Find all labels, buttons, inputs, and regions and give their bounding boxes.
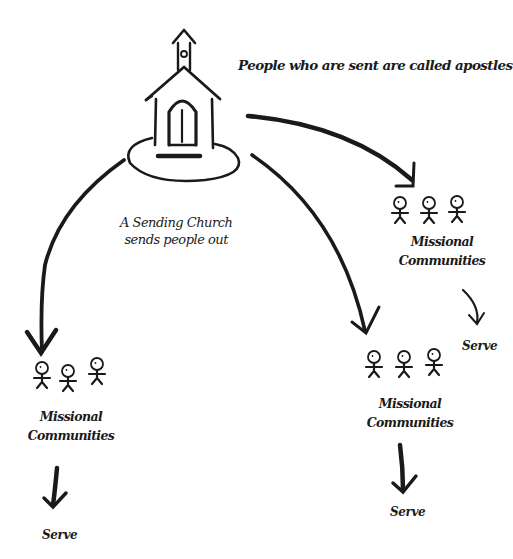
community-label-right: Missional Communities xyxy=(387,232,497,270)
serve-label-right: Serve xyxy=(462,339,497,353)
arrow-to-right-community xyxy=(248,116,414,186)
serve-arrow-middle xyxy=(393,445,416,492)
community-label-line1: Missional xyxy=(387,232,497,251)
church-icon xyxy=(128,30,239,181)
community-label-line1: Missional xyxy=(16,407,126,426)
serve-arrow-left xyxy=(44,468,66,507)
people-group-middle xyxy=(366,349,442,377)
sending-church-label-line2: sends people out xyxy=(120,231,232,248)
community-label-line2: Communities xyxy=(387,251,497,270)
people-group-right xyxy=(392,196,465,223)
community-label-left: Missional Communities xyxy=(16,407,126,445)
sending-church-label-line1: A Sending Church xyxy=(120,214,232,231)
diagram-title: People who are sent are called apostles xyxy=(238,57,513,73)
community-label-line2: Communities xyxy=(355,413,465,432)
sending-church-label: A Sending Church sends people out xyxy=(120,214,232,248)
serve-arrow-right xyxy=(463,290,484,324)
community-label-middle: Missional Communities xyxy=(355,394,465,432)
people-group-left xyxy=(34,358,105,391)
community-label-line2: Communities xyxy=(16,426,126,445)
community-label-line1: Missional xyxy=(355,394,465,413)
arrow-to-middle-community xyxy=(252,155,379,333)
serve-label-left: Serve xyxy=(42,528,77,542)
serve-label-middle: Serve xyxy=(390,505,425,519)
arrow-to-left-community xyxy=(27,160,124,353)
